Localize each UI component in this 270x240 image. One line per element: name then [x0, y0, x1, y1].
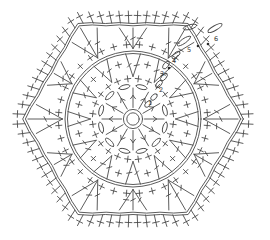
seam-start-chains	[144, 22, 224, 108]
crochet-chart-svg: 123456	[0, 0, 270, 240]
round-4-sc	[56, 42, 211, 197]
round-3-sc	[76, 62, 190, 176]
round-number-labels: 123456	[148, 35, 218, 107]
round-label-4: 4	[172, 57, 176, 65]
round-label-2: 2	[159, 86, 163, 94]
round-label-1: 1	[148, 99, 152, 107]
round-label-3: 3	[160, 70, 164, 78]
round-3-chain-circle	[65, 51, 201, 187]
crochet-diagram-page: 123456	[0, 0, 270, 240]
round-label-5: 5	[187, 46, 191, 54]
round-label-6: 6	[214, 35, 218, 43]
magic-ring	[123, 109, 142, 128]
round-5-dc-fans	[28, 28, 238, 210]
round-3-dc-pairs	[68, 54, 198, 184]
